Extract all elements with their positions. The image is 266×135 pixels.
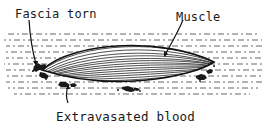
label-extravasated-blood: Extravasated blood [56,111,195,124]
label-fascia-torn: Fascia torn [15,8,97,20]
label-muscle: Muscle [176,11,221,23]
fascia-leader [29,20,36,64]
diagram-canvas: Fascia torn Muscle Extravasated blood [0,0,266,135]
